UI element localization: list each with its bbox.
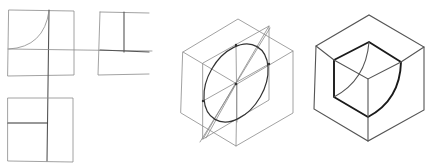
top-view [8, 98, 73, 162]
front-view [8, 10, 152, 161]
orthographic-views [8, 10, 152, 162]
isometric-result [314, 15, 424, 141]
isometric-construction [181, 19, 293, 146]
drawing [0, 0, 432, 168]
sketch-canvas: Hand-drawn technical sketch: orthographi… [0, 0, 432, 168]
side-view [98, 12, 149, 75]
